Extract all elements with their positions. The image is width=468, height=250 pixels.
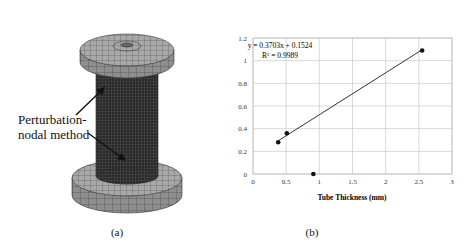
y-tick-label: 0.2 — [238, 148, 247, 156]
data-point — [420, 48, 425, 53]
trendline — [278, 50, 422, 141]
trendline-equation: y = 0.3703x + 0.1524 — [248, 41, 313, 50]
x-tick-label: 0.5 — [282, 178, 291, 186]
data-points — [276, 48, 425, 176]
r-squared-label: R² = 0.9989 — [262, 51, 298, 60]
caption-b: (b) — [297, 226, 327, 238]
data-point — [285, 131, 290, 136]
caption-a: (a) — [102, 226, 132, 238]
y-tick-label: 0 — [244, 171, 248, 179]
y-tick-label: 1 — [244, 57, 248, 65]
annotation-line-2: nodal method — [18, 127, 89, 142]
x-axis-label: Tube Thickness (mm) — [317, 193, 387, 202]
panel-b-chart: 00.20.40.60.811.2 00.511.522.53 y = 0.37… — [234, 0, 468, 250]
data-point — [276, 140, 281, 145]
tube-body — [96, 72, 158, 184]
annotation-label: Perturbation- nodal method — [18, 112, 89, 142]
x-tick-label: 0 — [251, 178, 255, 186]
x-tick-label: 1.5 — [348, 178, 357, 186]
y-tick-label: 1.2 — [238, 35, 247, 43]
data-point — [311, 172, 316, 177]
y-tick-label: 0.6 — [238, 103, 247, 111]
x-tick-label: 1 — [318, 178, 322, 186]
y-tick-label: 0.4 — [238, 125, 247, 133]
y-axis-ticks: 00.20.40.60.811.2 — [238, 35, 247, 179]
x-tick-label: 3 — [450, 178, 454, 186]
x-axis-ticks: 00.511.522.53 — [251, 178, 454, 186]
top-flange — [80, 34, 174, 78]
x-tick-label: 2 — [384, 178, 388, 186]
annotation-line-1: Perturbation- — [18, 112, 89, 127]
y-tick-label: 0.8 — [238, 80, 247, 88]
scatter-chart: 00.20.40.60.811.2 00.511.522.53 y = 0.37… — [234, 0, 468, 250]
x-tick-label: 2.5 — [414, 178, 423, 186]
panel-a-mesh-model: Perturbation- nodal method (a) — [0, 0, 234, 250]
